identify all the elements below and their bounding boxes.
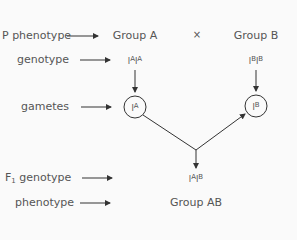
label-f1-genotype: F1 genotype xyxy=(5,171,71,185)
parent-a-phenotype: Group A xyxy=(113,29,158,42)
parent-b-phenotype: Group B xyxy=(234,29,279,42)
parent-b-genotype: IBIB xyxy=(249,55,263,66)
line-gamete-a-junction xyxy=(143,115,196,150)
label-gametes: gametes xyxy=(21,100,69,113)
line-junction-gamete-b xyxy=(196,114,245,150)
label-p-phenotype: P phenotype xyxy=(2,29,71,42)
label-phenotype: phenotype xyxy=(15,196,74,209)
gamete-a: IA xyxy=(131,102,138,113)
gamete-b: IB xyxy=(252,101,259,112)
cross-symbol: × xyxy=(193,29,201,40)
parent-a-genotype: IAIA xyxy=(128,55,142,66)
offspring-phenotype: Group AB xyxy=(170,196,222,209)
offspring-genotype: IAIB xyxy=(189,173,203,184)
label-genotype: genotype xyxy=(17,53,69,66)
